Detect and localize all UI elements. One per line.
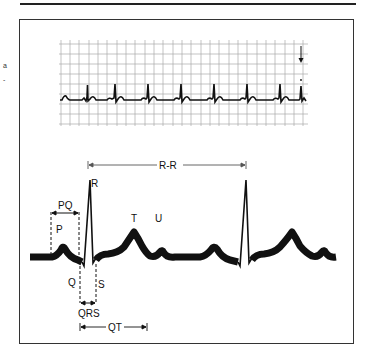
qrs-label: QRS [78,308,100,319]
rr-label: R-R [159,160,177,171]
p-label: P [56,224,63,235]
ecg-strip-trace [60,84,306,102]
r-label: R [91,178,98,189]
s-label: S [98,279,105,290]
qt-label: QT [108,322,122,333]
ecg-diagram: PQ P R R-R T U Q S QRS QT [0,0,369,359]
pq-label: PQ [58,200,73,211]
ecg-waveform-r1 [82,180,96,266]
qrs-interval [80,264,96,305]
q-label: Q [68,277,76,288]
ecg-waveform-st1 [96,232,238,262]
ecg-waveform-st2 [252,232,336,260]
u-label: U [155,213,162,224]
t-label: T [131,213,137,224]
ecg-waveform [30,247,82,262]
ecg-waveform-r2 [238,180,252,266]
ecg-strip-grid [59,40,308,126]
